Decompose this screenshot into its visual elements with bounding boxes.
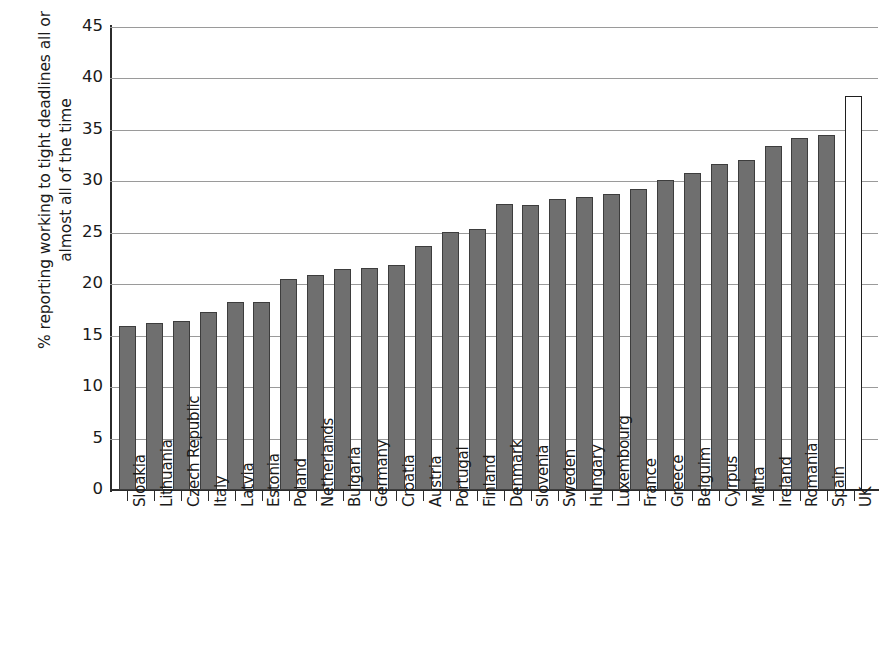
x-tick-mark-11 <box>423 491 424 501</box>
x-tick-mark-0 <box>127 491 128 501</box>
x-tick-mark-1 <box>154 491 155 501</box>
x-tick-mark-23 <box>746 491 747 501</box>
x-tick-mark-3 <box>208 491 209 501</box>
y-tick-label-15: 15 <box>63 327 103 344</box>
y-tick-label-10: 10 <box>63 378 103 395</box>
x-axis-label-czech-republic: Czech Republic <box>187 396 202 507</box>
y-tick-label-30: 30 <box>63 172 103 189</box>
x-axis-label-italy: Italy <box>214 475 229 507</box>
bar-austria <box>415 246 432 490</box>
x-tick-mark-24 <box>773 491 774 501</box>
y-tick-label-25: 25 <box>63 224 103 241</box>
x-axis-label-sweden: Sweden <box>563 449 578 507</box>
x-tick-mark-17 <box>585 491 586 501</box>
x-axis-label-romania: Romania <box>805 443 820 507</box>
x-tick-mark-2 <box>181 491 182 501</box>
x-axis-label-germany: Germany <box>375 439 390 507</box>
bar-cyrpus <box>711 164 728 490</box>
x-axis-label-denmark: Denmark <box>510 439 525 507</box>
x-tick-mark-8 <box>343 491 344 501</box>
x-axis-label-croatia: Croatia <box>402 454 417 507</box>
bar-malta <box>738 160 755 490</box>
x-axis-label-lithuania: Lithuania <box>160 439 175 507</box>
bar-spain <box>818 135 835 490</box>
x-axis-label-finland: Finland <box>483 455 498 507</box>
x-tick-mark-9 <box>370 491 371 501</box>
bar-belguim <box>684 173 701 490</box>
x-axis-label-austria: Austria <box>429 455 444 507</box>
x-tick-mark-25 <box>800 491 801 501</box>
x-tick-mark-16 <box>558 491 559 501</box>
x-axis-label-ireland: Ireland <box>779 457 794 507</box>
x-tick-mark-15 <box>531 491 532 501</box>
x-axis-label-sloakia: Sloakia <box>133 454 148 507</box>
x-axis-label-uk: UK <box>859 487 874 507</box>
x-axis-label-france: France <box>644 458 659 507</box>
x-tick-mark-12 <box>450 491 451 501</box>
x-tick-mark-5 <box>262 491 263 501</box>
y-tick-label-20: 20 <box>63 275 103 292</box>
x-axis-label-greece: Greece <box>671 455 686 507</box>
bar-chart-figure: % reporting working to tight deadlines a… <box>0 0 886 651</box>
x-tick-mark-20 <box>665 491 666 501</box>
bar-ireland <box>765 146 782 490</box>
x-tick-mark-13 <box>477 491 478 501</box>
x-axis-label-luxembourg: Luxembourg <box>617 416 632 508</box>
x-axis-label-spain: Spain <box>832 466 847 507</box>
x-axis-label-latvia: Latvia <box>241 463 256 507</box>
y-tick-label-0: 0 <box>63 481 103 498</box>
x-tick-mark-4 <box>235 491 236 501</box>
x-tick-mark-22 <box>719 491 720 501</box>
y-tick-label-40: 40 <box>63 69 103 86</box>
x-axis-label-malta: Malta <box>752 467 767 507</box>
x-axis-label-poland: Poland <box>294 458 309 507</box>
x-tick-mark-19 <box>639 491 640 501</box>
x-tick-mark-21 <box>692 491 693 501</box>
x-axis-label-slovenia: Slovenia <box>536 445 551 507</box>
x-tick-mark-14 <box>504 491 505 501</box>
x-tick-mark-7 <box>316 491 317 501</box>
y-tick-label-45: 45 <box>63 18 103 35</box>
x-tick-mark-27 <box>854 491 855 501</box>
bar-uk <box>845 96 862 490</box>
y-axis-tick-group: 454035302520151050 <box>53 0 103 651</box>
x-axis-label-cyrpus: Cyrpus <box>725 456 740 507</box>
y-tick-label-35: 35 <box>63 121 103 138</box>
x-tick-mark-6 <box>289 491 290 501</box>
bar-series <box>110 27 878 490</box>
y-tick-label-5: 5 <box>63 430 103 447</box>
x-axis-label-belguim: Belguim <box>698 447 713 507</box>
bar-romania <box>791 138 808 490</box>
x-tick-mark-26 <box>827 491 828 501</box>
x-axis-label-bulgaria: Bulgaria <box>348 446 363 507</box>
bar-greece <box>657 180 674 490</box>
x-tick-mark-10 <box>396 491 397 501</box>
x-axis-label-netherlands: Netherlands <box>321 418 336 507</box>
x-axis-label-group: SloakiaLithuaniaCzech RepublicItalyLatvi… <box>110 503 879 643</box>
x-axis-label-estonia: Estonia <box>267 453 282 507</box>
x-tick-mark-18 <box>612 491 613 501</box>
x-axis-label-portugal: Portugal <box>456 446 471 507</box>
x-axis-label-hungary: Hungary <box>590 444 605 507</box>
